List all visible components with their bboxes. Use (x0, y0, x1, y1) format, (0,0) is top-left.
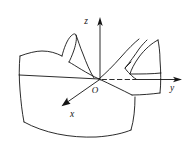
coordinate-axes (62, 17, 183, 106)
surface-front-right-edge (131, 97, 135, 130)
surface-wireframe (19, 34, 161, 137)
origin-label: O (92, 85, 99, 95)
surface-left-ridge-to-origin (69, 62, 99, 79)
surface-left-upper-edge (20, 51, 62, 56)
figure-container: z y x O (0, 0, 190, 154)
surface-front-edge (24, 122, 131, 137)
z-axis-label: z (83, 16, 88, 26)
surface-right-boundary (158, 40, 161, 93)
surface-left-boundary (19, 56, 24, 122)
surface-ruling-origin-lower-right (99, 79, 132, 95)
x-axis-label: x (69, 109, 75, 119)
surface-left-peak-hook (62, 34, 76, 62)
saddle-surface-diagram: z y x O (0, 0, 190, 154)
surface-right-upper-edge (130, 40, 158, 74)
surface-gridline-right (131, 73, 161, 74)
surface-right-notch-lower (130, 74, 136, 79)
surface-gridline-left (19, 75, 99, 79)
y-axis-label: y (169, 83, 175, 93)
surface-saddle-valley-curve (99, 39, 139, 79)
x-axis-arrowhead (62, 98, 71, 107)
surface-right-inner-curve (125, 40, 147, 68)
surface-right-lower-edge (132, 93, 160, 95)
